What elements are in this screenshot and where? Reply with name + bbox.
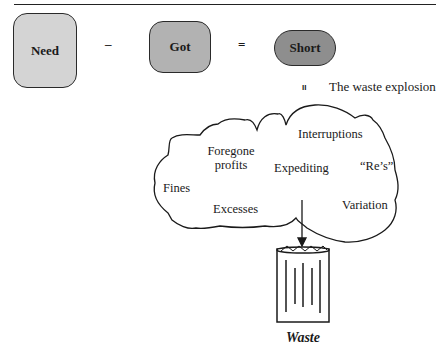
waste-label: Waste — [286, 330, 320, 346]
cloud-item-fines: Fines — [163, 181, 190, 195]
cloud-item-interruptions: Interruptions — [298, 127, 363, 141]
cloud-item-expediting: Expediting — [274, 161, 329, 175]
cloud-item-foregone-profits: Foregone profits — [196, 144, 266, 172]
waste-cloud-diagram — [0, 0, 445, 353]
cloud-item-excesses: Excesses — [213, 202, 258, 216]
trash-can-icon — [277, 246, 329, 322]
cloud-item-variation: Variation — [342, 198, 388, 212]
cloud-item-res: “Re’s” — [360, 159, 393, 173]
